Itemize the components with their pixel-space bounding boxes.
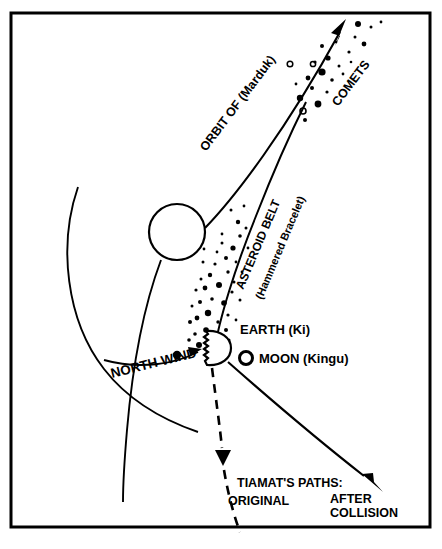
celestial-diagram-canvas: ORBIT OF (Marduk) COMETS ASTEROID BELT (… (0, 0, 442, 549)
sun-body (149, 204, 205, 260)
diagram-frame (11, 13, 430, 527)
label-moon: MOON (Kingu) (259, 351, 349, 366)
diagram-root: ORBIT OF (Marduk) COMETS ASTEROID BELT (… (0, 0, 442, 549)
label-original: ORIGINAL (228, 494, 289, 508)
label-collision: COLLISION (330, 506, 398, 520)
label-earth: EARTH (Ki) (240, 322, 310, 337)
label-after: AFTER (330, 492, 372, 506)
moon-circle-icon (240, 352, 253, 365)
label-tiamats-paths: TIAMAT'S PATHS: (237, 476, 343, 490)
